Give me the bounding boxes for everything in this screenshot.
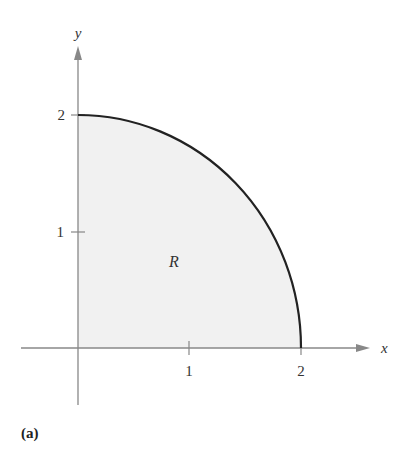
x-tick-label-1: 1: [185, 363, 193, 379]
y-axis-label: y: [73, 25, 82, 41]
x-tick-label-2: 2: [297, 363, 305, 379]
y-axis-arrow-icon: [74, 46, 82, 60]
x-axis-arrow-icon: [356, 344, 370, 352]
region-r-fill: [78, 115, 301, 348]
x-axis-label: x: [380, 340, 388, 356]
region-label: R: [168, 253, 179, 270]
y-tick-label-2: 2: [58, 107, 66, 123]
quarter-circle-diagram: 1 2 1 2 x y R: [0, 0, 412, 454]
y-tick-label-1: 1: [57, 224, 65, 240]
figure-caption: (a): [21, 425, 39, 442]
